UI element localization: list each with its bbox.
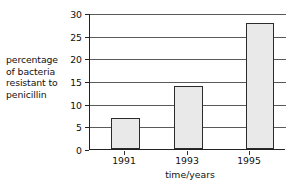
y-axis-label-line-2: of bacteria [6,66,68,78]
y-tick-mark-15 [85,82,89,83]
y-tick-label-30: 30 [60,9,82,20]
y-axis-label-line-3: resistant to [6,77,68,89]
bar-chart: percentage of bacteria resistant to peni… [0,0,292,185]
y-tick-label-10: 10 [60,100,82,111]
x-tick-label-1995: 1995 [229,155,269,166]
x-tick-label-1991: 1991 [104,155,144,166]
bar-1991 [111,118,140,150]
y-axis-label-line-4: penicillin [6,89,68,101]
bar-1993 [174,86,203,149]
gridline-30 [90,14,286,15]
y-tick-mark-25 [85,37,89,38]
y-tick-mark-20 [85,59,89,60]
y-tick-label-20: 20 [60,54,82,65]
y-axis-label-line-1: percentage [6,54,68,66]
y-axis-label: percentage of bacteria resistant to peni… [6,54,68,100]
y-tick-label-5: 5 [60,122,82,133]
y-tick-label-15: 15 [60,77,82,88]
y-tick-mark-5 [85,127,89,128]
x-axis-label: time/years [150,169,230,180]
plot-area [89,14,285,150]
y-tick-mark-0 [85,150,89,151]
x-tick-label-1993: 1993 [167,155,207,166]
y-tick-label-25: 25 [60,32,82,43]
y-tick-mark-10 [85,105,89,106]
y-tick-mark-30 [85,14,89,15]
bar-1995 [246,23,274,149]
y-tick-label-0: 0 [60,145,82,156]
